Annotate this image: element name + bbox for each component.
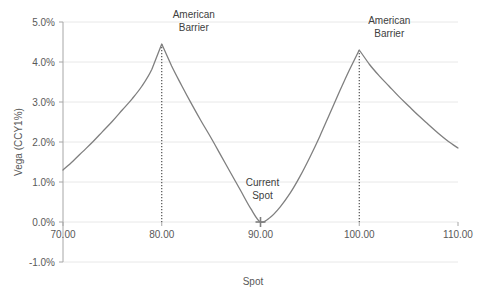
y-tick-label-3.0%: 3.0%	[32, 97, 55, 108]
x-tick-label-70.00: 70.00	[50, 229, 75, 240]
x-tick-label-100.00: 100.00	[344, 229, 375, 240]
vega-chart: -1.0%0.0%1.0%2.0%3.0%4.0%5.0% 70.0080.00…	[0, 0, 479, 297]
annotation-left-barrier-line2: Barrier	[179, 22, 210, 33]
chart-canvas: -1.0%0.0%1.0%2.0%3.0%4.0%5.0% 70.0080.00…	[0, 0, 479, 297]
annotation-right-barrier-line1: American	[368, 15, 410, 26]
y-tick-label-1.0%: 1.0%	[32, 177, 55, 188]
x-axis-title: Spot	[243, 276, 264, 287]
y-tick-label-0.0%: 0.0%	[32, 217, 55, 228]
annotation-current-spot-line2: Spot	[252, 190, 273, 201]
annotation-current-spot-line1: Current	[246, 177, 280, 188]
chart-background	[0, 0, 479, 297]
y-tick-label-4.0%: 4.0%	[32, 57, 55, 68]
y-tick-label--1.0%: -1.0%	[29, 257, 55, 268]
y-axis-title: Vega (CCY1%)	[13, 108, 24, 176]
annotation-right-barrier-line2: Barrier	[374, 28, 405, 39]
annotation-left-barrier-line1: American	[173, 9, 215, 20]
x-tick-label-80.00: 80.00	[149, 229, 174, 240]
y-tick-label-5.0%: 5.0%	[32, 17, 55, 28]
x-tick-label-110.00: 110.00	[443, 229, 473, 240]
y-tick-label-2.0%: 2.0%	[32, 137, 55, 148]
x-tick-label-90.00: 90.00	[248, 229, 273, 240]
